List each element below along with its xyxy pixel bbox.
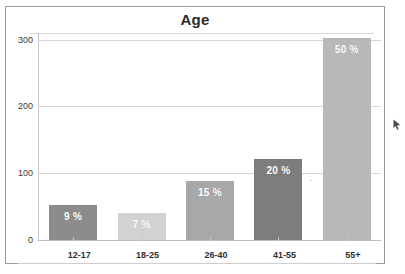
bar-data-label: 7 % [118,219,166,230]
x-tick [142,237,143,241]
chart-title: Age [6,11,384,28]
bar-data-label: 9 % [49,211,97,222]
y-tick-label: 100 [18,168,33,178]
plot-area: 0100200300 9 %7 %15 %20 %50 % [33,33,381,240]
scan-speck [359,143,361,145]
bottom-rule [18,263,376,264]
x-axis-label-55+: 55+ [345,250,360,260]
y-tick-label: 200 [18,101,33,111]
bar-slot: 7 % [107,33,175,240]
y-tick-label: 0 [28,235,33,245]
scan-speck [310,180,312,181]
x-tick [278,237,279,241]
x-axis-label-18-25: 18-25 [136,250,159,260]
bar-slot: 50 % [313,33,381,240]
x-tick [347,237,348,241]
x-axis-label-12-17: 12-17 [68,250,91,260]
bar-series: 9 %7 %15 %20 %50 % [39,33,381,240]
clipped-header-text: · · · [0,0,360,3]
bar-slot: 9 % [39,33,107,240]
x-tick [210,237,211,241]
x-axis-label-26-40: 26-40 [204,250,227,260]
bar-data-label: 15 % [186,187,234,198]
screenshot-canvas: · · · Age 0100200300 9 %7 %15 %20 %50 % … [0,0,405,274]
bar-41-55[interactable]: 20 % [254,159,302,240]
bar-slot: 15 % [176,33,244,240]
y-tick-label: 300 [18,35,33,45]
bar-12-17[interactable]: 9 % [49,205,97,240]
bar-26-40[interactable]: 15 % [186,181,234,240]
bar-data-label: 20 % [254,165,302,176]
bar-55+[interactable]: 50 % [323,38,371,240]
bar-18-25[interactable]: 7 % [118,213,166,240]
x-tick [73,237,74,241]
cursor-arrow-icon [393,119,401,130]
bar-slot: 20 % [244,33,312,240]
bar-data-label: 50 % [323,44,371,55]
x-axis-label-41-55: 41-55 [273,250,296,260]
chart-frame: Age 0100200300 9 %7 %15 %20 %50 % 12-171… [5,6,385,264]
